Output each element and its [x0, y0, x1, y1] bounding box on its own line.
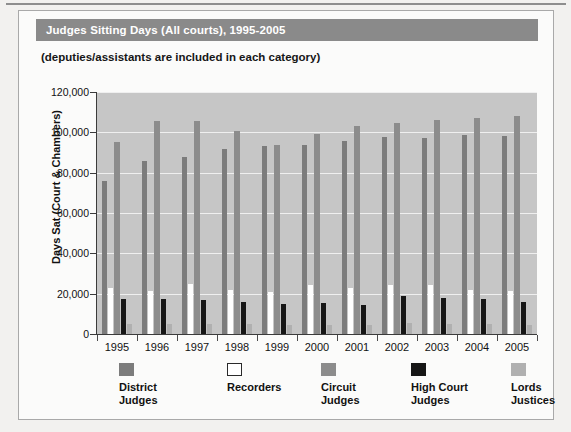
bar-lords-justices-2001	[367, 325, 372, 334]
bar-recorders-2004	[468, 290, 473, 334]
legend-item-high-court-judges[interactable]: High Court Judges	[411, 363, 468, 407]
y-axis-tick	[90, 173, 97, 174]
legend-swatch-high-court-judges	[411, 363, 426, 376]
chart-subtitle: (deputies/assistants are included in eac…	[41, 51, 320, 63]
x-axis-separator	[537, 335, 538, 341]
bar-recorders-1998	[228, 290, 233, 334]
y-axis-tick	[90, 92, 97, 93]
x-axis-line	[96, 334, 537, 335]
bar-lords-justices-1998	[247, 324, 252, 334]
bar-circuit-judges-2005	[514, 116, 519, 334]
y-axis-label: 20,000	[19, 288, 89, 300]
bar-circuit-judges-2002	[394, 123, 399, 334]
chart-legend: District JudgesRecordersCircuit JudgesHi…	[19, 363, 555, 419]
bar-circuit-judges-1995	[114, 142, 119, 334]
bar-district-judges-2001	[342, 141, 347, 334]
y-axis-tick	[90, 132, 97, 133]
bar-district-judges-2003	[422, 138, 427, 334]
bar-recorders-2000	[308, 285, 313, 334]
legend-label-circuit-judges: Circuit Judges	[321, 381, 360, 407]
bar-recorders-1996	[148, 291, 153, 334]
x-axis-label-1995: 1995	[97, 341, 137, 353]
bar-lords-justices-1995	[127, 324, 132, 334]
bar-recorders-2001	[348, 288, 353, 334]
page-title: Judges Sitting Days (All courts), 1995-2…	[36, 24, 286, 36]
bar-high-court-judges-2000	[321, 303, 326, 334]
bar-recorders-2002	[388, 285, 393, 334]
bar-high-court-judges-1999	[281, 304, 286, 334]
x-axis-label-2005: 2005	[497, 341, 537, 353]
legend-swatch-lords-justices	[511, 363, 526, 376]
x-axis-label-1996: 1996	[137, 341, 177, 353]
y-axis-label: 60,000	[19, 207, 89, 219]
bar-high-court-judges-1998	[241, 302, 246, 334]
bar-lords-justices-1997	[207, 324, 212, 334]
y-axis-label: 80,000	[19, 167, 89, 179]
top-rule	[6, 3, 566, 5]
legend-item-district-judges[interactable]: District Judges	[119, 363, 158, 407]
bar-lords-justices-2002	[407, 323, 412, 334]
bar-recorders-1997	[188, 284, 193, 334]
bar-district-judges-1998	[222, 149, 227, 334]
bar-high-court-judges-2001	[361, 305, 366, 334]
gridline	[97, 92, 537, 93]
x-axis-label-1998: 1998	[217, 341, 257, 353]
bar-lords-justices-1999	[287, 325, 292, 334]
x-axis-label-2001: 2001	[337, 341, 377, 353]
x-axis-label-2000: 2000	[297, 341, 337, 353]
gridline	[97, 132, 537, 133]
y-axis-tick	[90, 294, 97, 295]
y-axis-tick	[90, 213, 97, 214]
y-axis-label: 100,000	[19, 126, 89, 138]
bar-district-judges-1995	[102, 181, 107, 334]
x-axis-label-2004: 2004	[457, 341, 497, 353]
legend-item-circuit-judges[interactable]: Circuit Judges	[321, 363, 360, 407]
bar-high-court-judges-1995	[121, 299, 126, 334]
page-background: Judges Sitting Days (All courts), 1995-2…	[0, 0, 571, 432]
title-banner: Judges Sitting Days (All courts), 1995-2…	[36, 19, 538, 41]
bar-circuit-judges-2004	[474, 118, 479, 334]
bar-district-judges-1997	[182, 157, 187, 334]
bar-high-court-judges-2005	[521, 302, 526, 334]
legend-swatch-circuit-judges	[321, 363, 336, 376]
x-axis-label-1997: 1997	[177, 341, 217, 353]
legend-item-recorders[interactable]: Recorders	[227, 363, 281, 394]
bar-lords-justices-2005	[527, 325, 532, 334]
bar-recorders-2003	[428, 285, 433, 334]
bar-recorders-1995	[108, 288, 113, 334]
chart-card: Judges Sitting Days (All courts), 1995-2…	[18, 10, 554, 420]
legend-label-high-court-judges: High Court Judges	[411, 381, 468, 407]
bar-lords-justices-2000	[327, 325, 332, 334]
legend-label-recorders: Recorders	[227, 381, 281, 394]
bar-circuit-judges-2000	[314, 134, 319, 334]
y-axis-label: 120,000	[19, 86, 89, 98]
bar-district-judges-1996	[142, 161, 147, 334]
bar-district-judges-2000	[302, 145, 307, 334]
bar-district-judges-2005	[502, 136, 507, 334]
bar-high-court-judges-1996	[161, 299, 166, 334]
bar-circuit-judges-1997	[194, 121, 199, 334]
bar-high-court-judges-2002	[401, 296, 406, 334]
bar-circuit-judges-2003	[434, 120, 439, 334]
legend-swatch-recorders	[227, 363, 242, 376]
bar-high-court-judges-1997	[201, 300, 206, 334]
chart-area: Days Sat (Court & Chambers) 020,00040,00…	[19, 73, 555, 363]
x-axis-separator	[97, 335, 98, 341]
x-axis-label-2002: 2002	[377, 341, 417, 353]
legend-item-lords-justices[interactable]: Lords Justices	[511, 363, 555, 407]
y-axis-tick	[90, 334, 97, 335]
bar-lords-justices-2003	[447, 324, 452, 334]
bar-recorders-2005	[508, 291, 513, 334]
y-axis-tick	[90, 253, 97, 254]
bar-circuit-judges-1999	[274, 145, 279, 334]
bar-high-court-judges-2004	[481, 299, 486, 334]
bar-lords-justices-2004	[487, 324, 492, 334]
bar-circuit-judges-1998	[234, 131, 239, 334]
x-axis-label-2003: 2003	[417, 341, 457, 353]
x-axis-label-1999: 1999	[257, 341, 297, 353]
bar-district-judges-2004	[462, 135, 467, 334]
legend-swatch-district-judges	[119, 363, 134, 376]
bar-circuit-judges-1996	[154, 121, 159, 334]
bar-recorders-1999	[268, 292, 273, 334]
y-axis-label: 0	[19, 328, 89, 340]
